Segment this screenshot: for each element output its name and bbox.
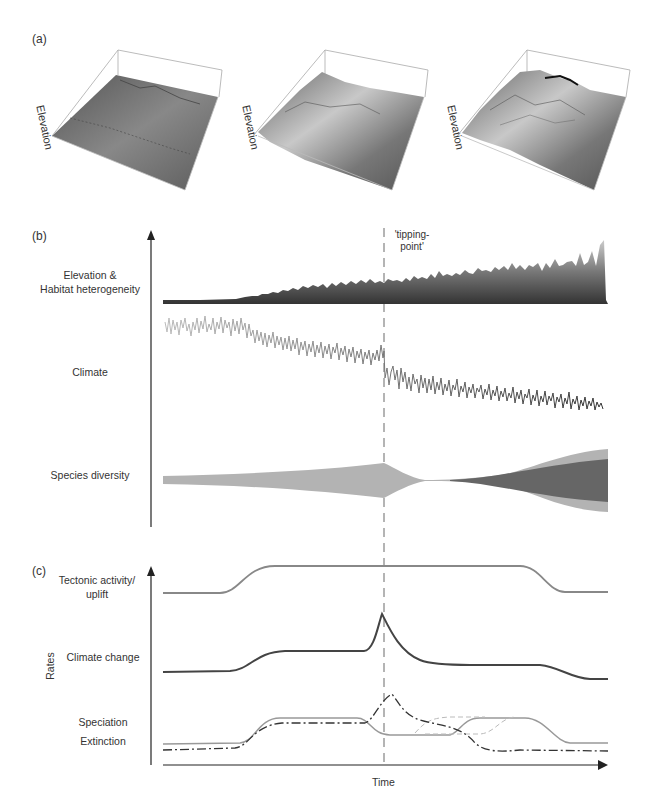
speciation-curve xyxy=(163,718,608,744)
label-speciation: Speciation xyxy=(28,715,178,729)
label-elevation-line1: Elevation & xyxy=(15,268,165,282)
tipping-point-annotation: 'tipping- point' xyxy=(389,229,435,253)
terrain-surface-3 xyxy=(457,50,630,190)
label-tectonic-activity: Tectonic activity/ uplift xyxy=(22,573,172,601)
label-climate: Climate xyxy=(15,365,165,379)
figure-canvas xyxy=(0,0,659,804)
speciation-alt-path-1 xyxy=(415,717,485,733)
climate-change-curve xyxy=(163,614,608,679)
label-tectonic-line2: uplift xyxy=(22,587,172,601)
label-extinction: Extinction xyxy=(28,734,178,748)
tectonic-activity-curve xyxy=(163,566,608,593)
elevation-heterogeneity-area xyxy=(163,240,608,304)
species-diversity-band xyxy=(163,449,608,512)
tipping-point-line1: 'tipping- xyxy=(389,229,435,241)
tipping-point-line2: point' xyxy=(389,241,435,253)
label-elevation-line2: Habitat heterogeneity xyxy=(15,282,165,296)
terrain-surface-1 xyxy=(52,50,222,190)
time-axis-label: Time xyxy=(372,776,395,788)
terrain-surface-2 xyxy=(253,50,428,190)
panel-c-time-axis xyxy=(163,760,608,770)
label-species-diversity: Species diversity xyxy=(15,468,165,482)
rates-axis-label: Rates xyxy=(44,646,56,686)
label-tectonic-line1: Tectonic activity/ xyxy=(22,573,172,587)
label-elevation-heterogeneity: Elevation & Habitat heterogeneity xyxy=(15,268,165,296)
